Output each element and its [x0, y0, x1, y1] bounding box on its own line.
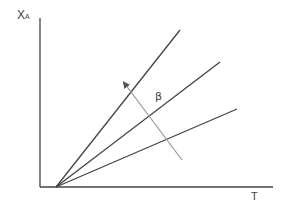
y-axis-label: XA — [17, 9, 30, 21]
line-shallow — [56, 109, 237, 187]
y-axis-label-sub: A — [25, 13, 30, 20]
line-middle — [56, 62, 220, 187]
beta-arrow — [125, 84, 182, 160]
y-axis-label-main: X — [17, 8, 25, 22]
x-axis-label: T — [251, 191, 258, 202]
diagram-canvas — [0, 0, 286, 211]
line-steep — [56, 30, 180, 187]
beta-label: β — [155, 91, 162, 102]
